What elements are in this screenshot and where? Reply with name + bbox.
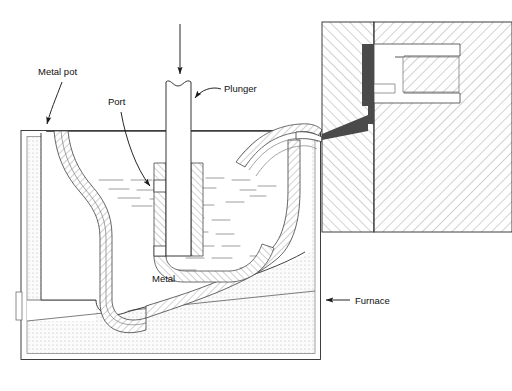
die-cavity-core — [395, 57, 459, 92]
port-opening-lower — [154, 246, 166, 256]
plunger-body — [166, 81, 191, 256]
plunger-group — [166, 81, 191, 256]
furnace-side-tab — [16, 292, 22, 320]
die-casting-diagram: Metal pot Port Plunger Metal Furnace — [0, 0, 512, 391]
label-metal-pot: Metal pot — [38, 66, 77, 77]
die-cavity-step — [374, 84, 395, 93]
metal-pot-leader — [47, 82, 62, 124]
furnace-refractory-slope — [27, 300, 96, 321]
label-plunger: Plunger — [224, 83, 257, 94]
label-metal: Metal — [152, 273, 175, 284]
sprue-nozzle-seat — [362, 44, 374, 56]
die-cavity-group — [374, 44, 460, 103]
gooseneck-bore-left-wall — [154, 163, 166, 256]
label-port: Port — [108, 96, 126, 107]
port-opening — [154, 180, 166, 192]
label-furnace: Furnace — [355, 295, 390, 306]
gooseneck-bore-right-wall — [191, 163, 203, 256]
diagram-canvas: Metal pot Port Plunger Metal Furnace — [0, 0, 512, 391]
plunger-leader — [195, 88, 221, 98]
